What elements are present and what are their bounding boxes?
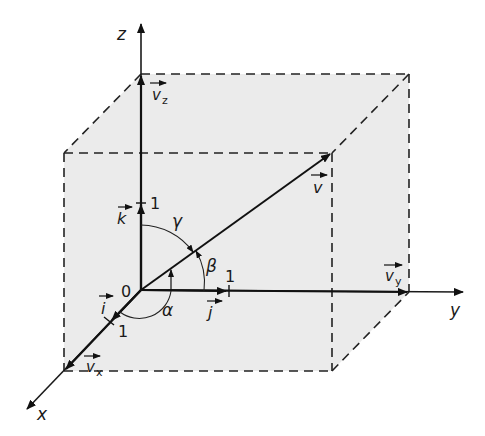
x-unit-label: 1 [118,322,128,341]
svg-text:v: v [385,267,395,285]
vector-direction-angles-diagram: z y x 0 1 1 1 k j i v v z [0,0,485,436]
y-axis-label: y [449,300,461,320]
svg-text:j: j [206,303,213,322]
svg-text:z: z [162,94,168,107]
gamma-label: γ [172,211,183,231]
svg-text:i: i [101,299,106,318]
svg-text:v: v [86,358,96,376]
x-axis-label: x [36,404,48,424]
svg-text:k: k [117,209,127,228]
svg-text:x: x [96,366,103,379]
origin-label: 0 [121,282,131,301]
z-unit-label: 1 [150,194,160,213]
beta-label: β [205,256,217,276]
svg-text:y: y [395,275,402,288]
svg-text:v: v [313,178,323,197]
z-axis-label: z [116,24,127,44]
y-unit-label: 1 [225,267,235,286]
alpha-label: α [162,300,173,320]
svg-text:v: v [152,86,162,104]
